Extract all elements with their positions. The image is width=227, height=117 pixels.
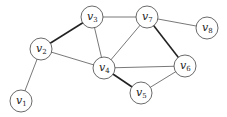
node-v5: v5 <box>130 82 152 104</box>
node-v4: v4 <box>93 57 115 79</box>
edge-v4-v6 <box>104 66 185 68</box>
node-v1: v1 <box>10 90 32 112</box>
node-v8: v8 <box>196 17 218 39</box>
node-v7: v7 <box>136 6 158 28</box>
node-v3: v3 <box>81 6 103 28</box>
nodes-layer: v1v2v3v4v5v6v7v8 <box>10 6 218 112</box>
node-v2: v2 <box>30 38 52 60</box>
graph-diagram: v1v2v3v4v5v6v7v8 <box>0 0 227 117</box>
node-v6: v6 <box>174 55 196 77</box>
